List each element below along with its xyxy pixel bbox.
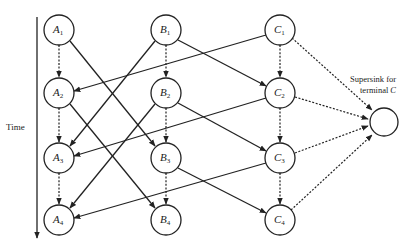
edge-C3-sink [295,126,368,153]
node-C3: C3 [265,143,295,173]
node-A2: A2 [44,78,74,108]
node-C1: C1 [265,15,295,45]
node-B2: B2 [151,78,181,108]
node-A3: A3 [44,143,74,173]
supersink-label-line1: Supersink for [350,74,396,84]
node-A4: A4 [44,205,74,235]
time-axis: Time [6,17,37,238]
solid-edges [70,35,266,218]
node-C2: C2 [265,78,295,108]
edge-C2-sink [295,97,368,119]
dashed-edges-to-sink [291,38,372,210]
node-C4: C4 [265,205,295,235]
node-B3: B3 [151,143,181,173]
edge-B1-C2 [178,40,266,86]
supersink-node: Supersink for terminalC [350,74,398,136]
supersink-label-line2: terminalC [360,85,396,95]
node-A1: A1 [44,15,74,45]
edge-C4-sink [291,135,372,210]
node-B1: B1 [151,15,181,45]
time-expanded-network-diagram: Time A1 [0,0,410,247]
time-label: Time [6,122,25,132]
edge-B3-C4 [178,168,266,213]
edge-B2-C3 [178,103,266,151]
node-B4: B4 [151,205,181,235]
